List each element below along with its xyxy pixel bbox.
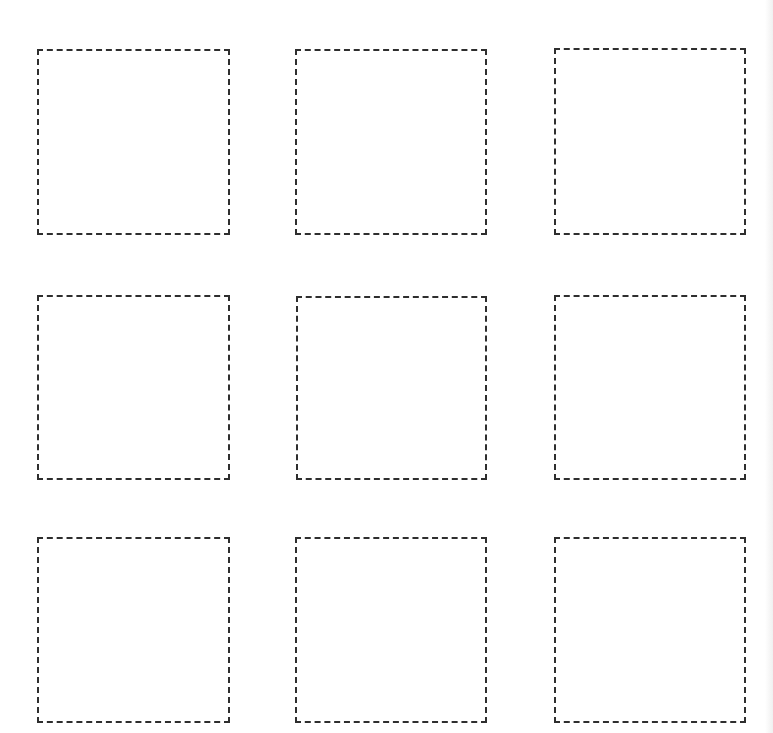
- scan-edge-shadow: [765, 0, 773, 733]
- empty-box-r1-c2: [295, 49, 487, 235]
- empty-box-r1-c1: [37, 49, 230, 235]
- empty-box-r2-c3: [554, 295, 746, 480]
- worksheet-page: [0, 0, 773, 733]
- empty-box-r3-c3: [554, 537, 746, 723]
- empty-box-r3-c2: [295, 537, 487, 723]
- empty-box-r1-c3: [554, 48, 746, 235]
- empty-box-r3-c1: [37, 537, 230, 723]
- empty-box-r2-c1: [37, 295, 230, 480]
- empty-box-r2-c2: [296, 296, 487, 480]
